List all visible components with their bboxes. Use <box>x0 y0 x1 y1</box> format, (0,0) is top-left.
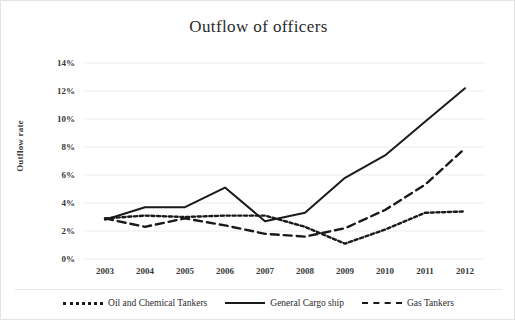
x-tick-label: 2011 <box>416 266 434 276</box>
x-tick-label: 2005 <box>176 266 195 276</box>
legend-label: Oil and Chemical Tankers <box>108 298 207 308</box>
x-tick-label: 2010 <box>376 266 395 276</box>
legend-swatch-solid-icon <box>225 302 265 304</box>
x-axis-tick-labels: 2003200420052006200720082009201020112012 <box>96 266 475 276</box>
data-series <box>105 88 465 243</box>
y-tick-label: 2% <box>62 226 76 236</box>
legend-label: Gas Tankers <box>407 298 454 308</box>
chart-container: Outflow of officers Outflow rate 0%2%4%6… <box>0 0 515 320</box>
legend-label: General Cargo ship <box>270 298 344 308</box>
x-tick-label: 2009 <box>336 266 355 276</box>
gridlines <box>85 63 485 259</box>
chart-legend: Oil and Chemical TankersGeneral Cargo sh… <box>15 289 502 314</box>
y-axis-tick-labels: 0%2%4%6%8%10%12%14% <box>57 58 75 264</box>
legend-item[interactable]: Oil and Chemical Tankers <box>63 298 207 308</box>
series-line <box>105 88 465 221</box>
y-tick-label: 8% <box>62 142 76 152</box>
plot-area: 0%2%4%6%8%10%12%14% 20032004200520062007… <box>1 1 515 320</box>
x-tick-label: 2008 <box>296 266 315 276</box>
y-tick-label: 12% <box>57 86 75 96</box>
y-tick-label: 6% <box>62 170 76 180</box>
x-tick-label: 2012 <box>456 266 475 276</box>
legend-swatch-dashed-icon <box>362 302 402 304</box>
series-line <box>105 148 465 236</box>
x-tick-label: 2004 <box>136 266 155 276</box>
y-tick-label: 10% <box>57 114 75 124</box>
legend-swatch-dotted-icon <box>63 302 103 305</box>
legend-item[interactable]: General Cargo ship <box>225 298 344 308</box>
x-tick-label: 2007 <box>256 266 275 276</box>
legend-item[interactable]: Gas Tankers <box>362 298 454 308</box>
x-tick-label: 2003 <box>96 266 115 276</box>
y-tick-label: 14% <box>57 58 75 68</box>
y-tick-label: 0% <box>62 254 76 264</box>
y-tick-label: 4% <box>62 198 76 208</box>
x-tick-label: 2006 <box>216 266 235 276</box>
